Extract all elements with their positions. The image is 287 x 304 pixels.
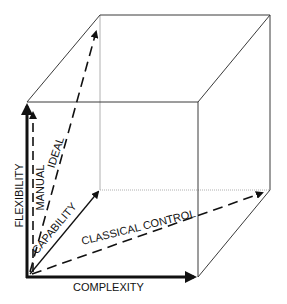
top-right-depth-edge bbox=[198, 15, 270, 102]
cube-diagram: FLEXIBILITY MANUAL IDEAL CAPABILITY CLAS… bbox=[0, 0, 287, 304]
complexity-axis-label: COMPLEXITY bbox=[73, 282, 144, 293]
cube-drawing bbox=[0, 0, 287, 304]
manual-label: MANUAL bbox=[35, 165, 46, 211]
top-left-depth-edge bbox=[27, 15, 100, 102]
flexibility-axis-label: FLEXIBILITY bbox=[14, 163, 25, 227]
